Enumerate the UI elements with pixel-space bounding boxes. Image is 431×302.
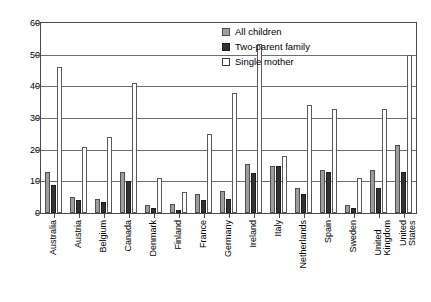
x-axis-label: Canada [124, 220, 133, 252]
x-tick-mark [404, 214, 405, 218]
bar-two [201, 200, 206, 213]
legend-label: Single mother [235, 57, 294, 67]
bar-group [141, 23, 166, 213]
x-tick-mark [54, 214, 55, 218]
bar-group [316, 23, 341, 213]
y-tick-mark [35, 150, 39, 151]
x-axis-label: Finland [174, 220, 183, 250]
x-tick-mark [354, 214, 355, 218]
bar-single [157, 178, 162, 213]
x-axis-label: Italy [274, 220, 283, 237]
x-tick-mark [179, 214, 180, 218]
bar-group [391, 23, 416, 213]
bar-single [207, 134, 212, 213]
x-tick-mark [379, 214, 380, 218]
x-axis-label: Ireland [249, 220, 258, 248]
x-tick-mark [129, 214, 130, 218]
bar-two [226, 199, 231, 213]
bar-all [395, 145, 400, 213]
bar-all [170, 204, 175, 214]
x-axis-label: Denmark [149, 220, 158, 257]
bar-single [82, 147, 87, 214]
x-tick-mark [204, 214, 205, 218]
bar-single [407, 55, 412, 213]
bar-two [376, 188, 381, 213]
legend-item: Two-parent family [222, 41, 310, 53]
bar-all [370, 170, 375, 213]
x-axis-label: United Kingdom [374, 220, 393, 256]
bar-two [401, 172, 406, 213]
y-axis: 0102030405060 [0, 22, 40, 214]
bar-all [45, 172, 50, 213]
legend-item: Single mother [222, 56, 310, 68]
legend-label: All children [235, 27, 281, 37]
bar-two [301, 194, 306, 213]
bar-single [232, 93, 237, 213]
bar-all [270, 166, 275, 214]
x-axis-label: Austria [74, 220, 83, 248]
bar-single [57, 67, 62, 213]
bar-two [76, 200, 81, 213]
x-axis-label: France [199, 220, 208, 248]
bar-two [151, 208, 156, 213]
x-tick-mark [154, 214, 155, 218]
bar-all [120, 172, 125, 213]
bar-all [345, 205, 350, 213]
bar-chart: 0102030405060 AustraliaAustriaBelgiumCan… [0, 0, 431, 302]
bar-single [332, 109, 337, 214]
bar-all [320, 170, 325, 213]
bar-two [126, 181, 131, 213]
bar-group [41, 23, 66, 213]
x-axis-label: Sweden [349, 220, 358, 253]
y-tick-mark [35, 118, 39, 119]
bar-single [382, 109, 387, 214]
bar-single [307, 105, 312, 213]
bar-two [251, 173, 256, 213]
bar-two [276, 166, 281, 214]
bar-group [191, 23, 216, 213]
chart-legend: All childrenTwo-parent familySingle moth… [222, 26, 310, 68]
y-tick-mark [35, 55, 39, 56]
x-axis-label: Germany [224, 220, 233, 257]
legend-item: All children [222, 26, 310, 38]
y-tick-mark [35, 86, 39, 87]
legend-label: Two-parent family [235, 42, 310, 52]
x-tick-mark [304, 214, 305, 218]
x-tick-mark [329, 214, 330, 218]
bar-single [182, 192, 187, 213]
bar-group [116, 23, 141, 213]
bar-group [341, 23, 366, 213]
x-axis-label: Netherlands [299, 220, 308, 269]
bar-all [195, 194, 200, 213]
bar-two [51, 185, 56, 214]
bar-all [245, 164, 250, 213]
x-tick-mark [79, 214, 80, 218]
x-tick-mark [104, 214, 105, 218]
bar-group [366, 23, 391, 213]
bar-two [351, 208, 356, 213]
bar-two [326, 172, 331, 213]
bar-all [295, 188, 300, 213]
y-tick-mark [35, 23, 39, 24]
bar-all [70, 197, 75, 213]
bar-single [282, 156, 287, 213]
bar-all [145, 205, 150, 213]
x-axis-label: Australia [49, 220, 58, 255]
y-tick-mark [35, 181, 39, 182]
bar-single [107, 137, 112, 213]
x-tick-mark [254, 214, 255, 218]
bar-group [166, 23, 191, 213]
legend-swatch-icon [222, 58, 230, 66]
bar-single [257, 44, 262, 213]
legend-swatch-icon [222, 28, 230, 36]
x-tick-mark [279, 214, 280, 218]
x-axis-label: Belgium [99, 220, 108, 253]
legend-swatch-icon [222, 43, 230, 51]
x-axis-label: United States [399, 220, 418, 246]
bar-group [91, 23, 116, 213]
bar-group [66, 23, 91, 213]
x-axis-label: Spain [324, 220, 333, 243]
bar-all [220, 191, 225, 213]
bar-two [101, 202, 106, 213]
bar-single [357, 178, 362, 213]
